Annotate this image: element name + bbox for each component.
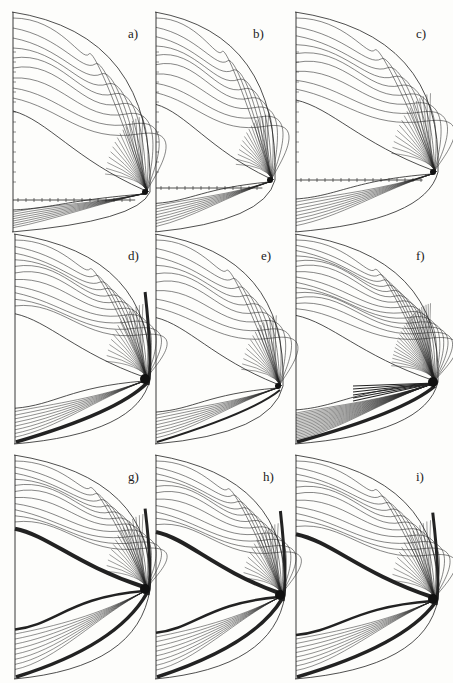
panel-b: b) <box>155 12 277 232</box>
panel-c: c) <box>295 12 440 232</box>
contour-plot <box>295 234 440 444</box>
panel-label: b) <box>253 26 264 42</box>
panel-label: i) <box>416 469 424 485</box>
contour-plot <box>12 12 152 232</box>
panel-label: c) <box>416 26 426 42</box>
panel-label: g) <box>128 469 139 485</box>
contour-plot <box>295 455 440 679</box>
contour-plot <box>14 234 152 444</box>
panel-a: a) <box>12 12 152 232</box>
contour-plot <box>155 12 277 232</box>
contour-plot <box>295 12 440 232</box>
panel-i: i) <box>295 455 440 679</box>
contour-plot <box>155 234 285 444</box>
contour-plot <box>155 455 287 679</box>
panel-label: a) <box>128 26 138 42</box>
panel-g: g) <box>14 455 152 679</box>
panel-label: d) <box>128 248 139 264</box>
panel-h: h) <box>155 455 287 679</box>
contour-plot <box>14 455 152 679</box>
panel-e: e) <box>155 234 285 444</box>
panel-label: e) <box>261 248 271 264</box>
panel-f: f) <box>295 234 440 444</box>
panel-label: h) <box>263 469 274 485</box>
panel-d: d) <box>14 234 152 444</box>
panel-label: f) <box>416 248 425 264</box>
